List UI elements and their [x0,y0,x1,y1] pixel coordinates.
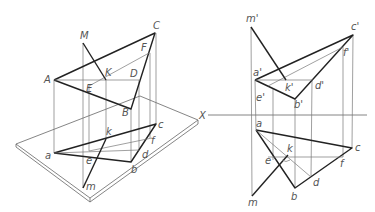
front-projection [251,27,353,99]
label-F: F [141,42,147,53]
label-D: D [130,68,138,79]
label-d: d [142,149,149,160]
diagram-canvas: M C A K D E F B a c k f d e b m X [0,0,375,212]
right-labels: m' c' f' a' k' d' e' b' a k c e f d b m [246,13,361,208]
right-orthographic-view: X m' c' f' [198,13,367,208]
label-b-prime: b' [294,99,303,110]
triangle-abc-projection [54,124,156,188]
label-d: d [313,177,320,188]
label-m: m [248,197,258,208]
label-X: X [198,110,207,121]
label-f: f [340,158,345,169]
label-f: f [151,135,156,146]
label-B: B [122,107,129,118]
label-b: b [131,164,137,175]
label-k: k [287,143,294,154]
label-e-prime: e' [256,92,265,103]
left-labels: M C A K D E F B a c k f d e b m [43,20,164,192]
label-M: M [80,30,89,41]
label-C: C [153,20,160,31]
label-k: k [106,126,113,137]
label-a-prime: a' [253,67,262,78]
label-A: A [43,74,51,85]
label-c: c [355,142,361,153]
label-e: e [86,155,92,166]
label-a: a [256,118,262,129]
label-f-prime: f' [343,47,349,58]
label-k-prime: k' [285,82,294,93]
label-a: a [45,150,51,161]
label-c: c [158,119,164,130]
label-b: b [291,191,297,202]
label-d-prime: d' [315,80,324,91]
label-c-prime: c' [351,21,359,32]
label-e: e [265,155,271,166]
left-pictorial-view: M C A K D E F B a c k f d e b m [16,20,198,202]
label-E: E [86,83,93,94]
label-m: m [86,181,96,192]
label-m-prime: m' [246,13,259,24]
label-K: K [105,67,113,78]
horizontal-projection-plane [16,96,198,202]
